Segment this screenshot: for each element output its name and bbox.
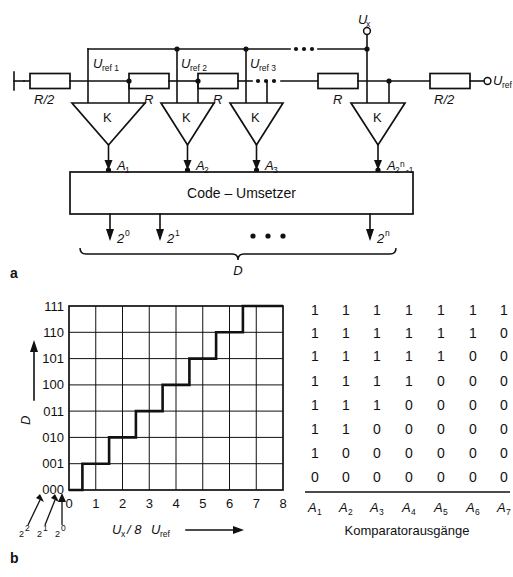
svg-text:ref 1: ref 1 [102, 63, 119, 73]
panel-a-circuit: R/2 R R R R/2 U x U ref U ref 1 U ref 2 [10, 12, 513, 281]
label-resistor-r-1: R [144, 92, 153, 107]
label-bit-2-pow-2: 2 2 [19, 523, 30, 539]
svg-text:1: 1 [469, 325, 477, 341]
panel-a-id: a [10, 265, 18, 281]
table-row: 1 1 0 0 0 0 0 [311, 421, 508, 437]
svg-text:ref: ref [160, 529, 171, 539]
bus-brace [80, 248, 396, 260]
svg-text:1: 1 [405, 348, 413, 364]
svg-text:4: 4 [172, 496, 179, 511]
svg-text:0: 0 [405, 421, 413, 437]
svg-text:2: 2 [116, 231, 125, 246]
ux-bus-node-3 [243, 46, 248, 51]
svg-text:5: 5 [443, 507, 448, 517]
svg-text:0: 0 [405, 445, 413, 461]
svg-text:1: 1 [342, 421, 350, 437]
uref-terminal [484, 78, 491, 85]
y-axis-arrow [30, 340, 38, 400]
svg-text:3: 3 [146, 496, 153, 511]
resistor-r-2 [198, 74, 238, 89]
chart-y-axis-label: D [18, 416, 33, 425]
svg-text:1: 1 [373, 397, 381, 413]
svg-text:101: 101 [42, 351, 64, 366]
label-uref-3: U ref 3 [250, 56, 276, 73]
ref-tap-node-1 [126, 78, 131, 83]
svg-text:0: 0 [500, 469, 508, 485]
svg-text:x: x [366, 19, 371, 29]
svg-text:0: 0 [342, 469, 350, 485]
svg-text:7: 7 [506, 507, 511, 517]
svg-text:A: A [307, 500, 317, 515]
ref-tap-node-2 [195, 78, 200, 83]
table-header-cell: A 5 [433, 500, 448, 517]
table-header-cell: A 7 [496, 500, 511, 517]
svg-text:0: 0 [469, 445, 477, 461]
resistor-r-1 [129, 74, 169, 89]
svg-text:0: 0 [500, 421, 508, 437]
svg-text:1: 1 [437, 302, 445, 318]
svg-text:n: n [400, 159, 405, 169]
svg-text:0: 0 [437, 397, 445, 413]
label-bus-d: D [233, 263, 242, 278]
label-2-pow-n: 2 n [376, 228, 390, 246]
arrowhead-2-0 [106, 229, 114, 241]
comparator-truth-table: 1 1 1 1 1 1 1 1 1 1 1 1 1 0 [305, 302, 511, 538]
chart-x-ticklabels: 0 1 2 3 4 5 6 7 8 [65, 496, 286, 511]
svg-text:0: 0 [469, 469, 477, 485]
label-2-pow-1: 2 1 [166, 228, 180, 246]
svg-text:2: 2 [376, 231, 385, 246]
label-uref-terminal: U ref [493, 73, 513, 90]
svg-text:0: 0 [373, 445, 381, 461]
svg-text:2: 2 [19, 529, 24, 539]
resistor-r-half-right [430, 74, 470, 89]
chart-x-axis-label: U x / 8 U ref [112, 522, 244, 539]
label-a3: A 3 [264, 158, 278, 175]
svg-text:8: 8 [279, 496, 286, 511]
panel-b-chart: D 111 110 101 100 011 010 001 000 0 1 2 … [10, 299, 287, 566]
svg-text:2: 2 [37, 529, 42, 539]
ux-bus-node-2 [174, 46, 179, 51]
svg-text:1: 1 [373, 373, 381, 389]
svg-text:2: 2 [25, 523, 30, 533]
svg-text:0: 0 [469, 397, 477, 413]
svg-text:011: 011 [43, 404, 64, 419]
table-header-cell: A 1 [307, 500, 322, 517]
table-header-cell: A 6 [465, 500, 480, 517]
svg-text:1: 1 [311, 302, 319, 318]
svg-text:ref 3: ref 3 [259, 63, 276, 73]
svg-text:0: 0 [125, 228, 130, 238]
table-header-row: A 1 A 2 A 3 A 4 A 5 [307, 500, 511, 517]
svg-text:/ 8: / 8 [126, 522, 142, 537]
label-bit-2-pow-1: 2 1 [37, 523, 48, 539]
label-a1: A 1 [116, 158, 130, 175]
comparator-label-3: K [251, 110, 260, 125]
svg-text:A: A [496, 500, 506, 515]
svg-text:x: x [121, 529, 126, 539]
svg-text:100: 100 [42, 377, 64, 392]
resistor-r-3 [318, 74, 358, 89]
svg-text:010: 010 [42, 430, 64, 445]
svg-text:1: 1 [311, 397, 319, 413]
rail-ellipsis-dots [256, 79, 276, 83]
svg-text:2: 2 [204, 165, 209, 175]
table-row: 1 1 1 1 1 1 0 [311, 325, 508, 341]
svg-text:1: 1 [469, 302, 477, 318]
table-header-cell: A 3 [369, 500, 384, 517]
svg-text:1: 1 [405, 325, 413, 341]
svg-text:ref: ref [502, 80, 513, 90]
svg-text:n: n [385, 228, 390, 238]
svg-text:1: 1 [405, 302, 413, 318]
svg-text:1: 1 [317, 507, 322, 517]
label-bit-2-pow-0: 2 0 [55, 523, 66, 539]
svg-text:1: 1 [342, 373, 350, 389]
table-row: 1 1 1 0 0 0 0 [311, 397, 508, 413]
ref-tap-node-last [386, 78, 391, 83]
svg-text:1: 1 [437, 325, 445, 341]
svg-text:1: 1 [373, 325, 381, 341]
table-caption: Komparatorausgänge [344, 523, 469, 538]
svg-text:3: 3 [379, 507, 384, 517]
converter-outputs [106, 214, 374, 241]
label-a2: A 2 [195, 158, 209, 175]
svg-text:3: 3 [273, 165, 278, 175]
svg-text:0: 0 [65, 496, 72, 511]
